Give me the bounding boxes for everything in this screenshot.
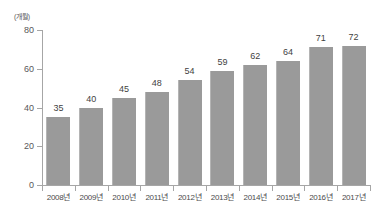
x-axis-tick bbox=[75, 186, 76, 191]
x-axis-tick bbox=[108, 186, 109, 191]
x-axis-tick bbox=[304, 186, 305, 191]
x-axis-tick bbox=[239, 186, 240, 191]
y-axis-unit-label: (개월) bbox=[14, 11, 30, 21]
bar-value-label: 40 bbox=[75, 95, 107, 104]
bar-value-label: 45 bbox=[108, 85, 140, 94]
bar bbox=[145, 92, 169, 185]
bar-value-label: 71 bbox=[305, 34, 337, 43]
x-axis-tick bbox=[173, 186, 174, 191]
x-axis-tick bbox=[140, 186, 141, 191]
bar bbox=[276, 61, 300, 185]
bar bbox=[342, 46, 366, 186]
y-axis-tick-label: 0 bbox=[29, 181, 34, 190]
bar bbox=[79, 108, 103, 186]
x-axis-tick bbox=[42, 186, 43, 191]
bar-value-label: 59 bbox=[206, 58, 238, 67]
bar bbox=[309, 47, 333, 185]
bar bbox=[243, 65, 267, 185]
bar-value-label: 35 bbox=[42, 104, 74, 113]
y-axis-tick-label: 80 bbox=[24, 26, 34, 35]
bar-chart: (개월) 020406080 352008년402009년452010년4820… bbox=[0, 0, 388, 213]
bar-value-label: 48 bbox=[141, 79, 173, 88]
bar bbox=[46, 117, 70, 185]
x-axis-tick bbox=[337, 186, 338, 191]
bar bbox=[210, 71, 234, 185]
bar-value-label: 62 bbox=[239, 52, 271, 61]
bar-value-label: 64 bbox=[272, 48, 304, 57]
y-axis-tick-label: 40 bbox=[24, 103, 34, 112]
bar bbox=[112, 98, 136, 185]
bar-value-label: 54 bbox=[174, 67, 206, 76]
y-axis-tick-label: 20 bbox=[24, 142, 34, 151]
bar bbox=[178, 80, 202, 185]
x-axis-tick bbox=[206, 186, 207, 191]
plot-area bbox=[42, 30, 370, 185]
y-axis-tick-label: 60 bbox=[24, 64, 34, 73]
x-axis-category-label: 2017년 bbox=[334, 194, 374, 202]
x-axis-tick bbox=[272, 186, 273, 191]
x-axis-tick bbox=[370, 186, 371, 191]
bar-value-label: 72 bbox=[338, 33, 370, 42]
